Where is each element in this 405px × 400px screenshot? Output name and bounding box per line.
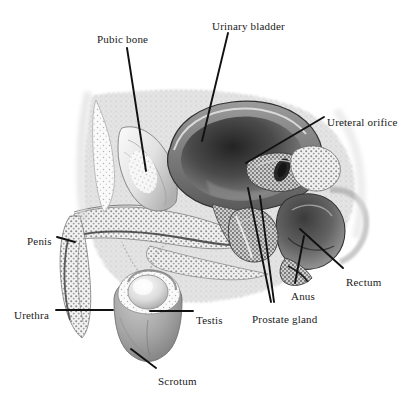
label-urethra: Urethra <box>14 309 49 322</box>
anatomical-figure: Pubic bone Urinary bladder Ureteral orif… <box>0 0 405 400</box>
label-prostate-gland: Prostate gland <box>252 313 317 326</box>
label-testis: Testis <box>196 314 223 327</box>
label-ureteral-orifice: Ureteral orifice <box>327 116 398 129</box>
label-urinary-bladder: Urinary bladder <box>212 20 285 33</box>
label-scrotum: Scrotum <box>158 375 197 388</box>
label-layer: Pubic bone Urinary bladder Ureteral orif… <box>0 0 405 400</box>
label-penis: Penis <box>27 235 52 248</box>
label-anus: Anus <box>291 290 315 303</box>
label-pubic-bone: Pubic bone <box>97 33 148 46</box>
label-rectum: Rectum <box>346 276 381 289</box>
